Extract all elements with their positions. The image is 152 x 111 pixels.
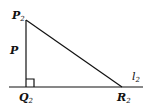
- line-label-l2: l2: [132, 71, 140, 84]
- vertex-label-p2: P2: [12, 10, 25, 23]
- hypotenuse-p2-r2: [26, 20, 122, 87]
- vertex-label-r2: R2: [117, 92, 131, 105]
- right-angle-marker: [26, 79, 34, 87]
- side-label-p: P: [10, 45, 18, 56]
- vertex-label-q2: Q2: [19, 92, 33, 105]
- triangle-diagram: P2 P Q2 R2 l2: [0, 0, 152, 111]
